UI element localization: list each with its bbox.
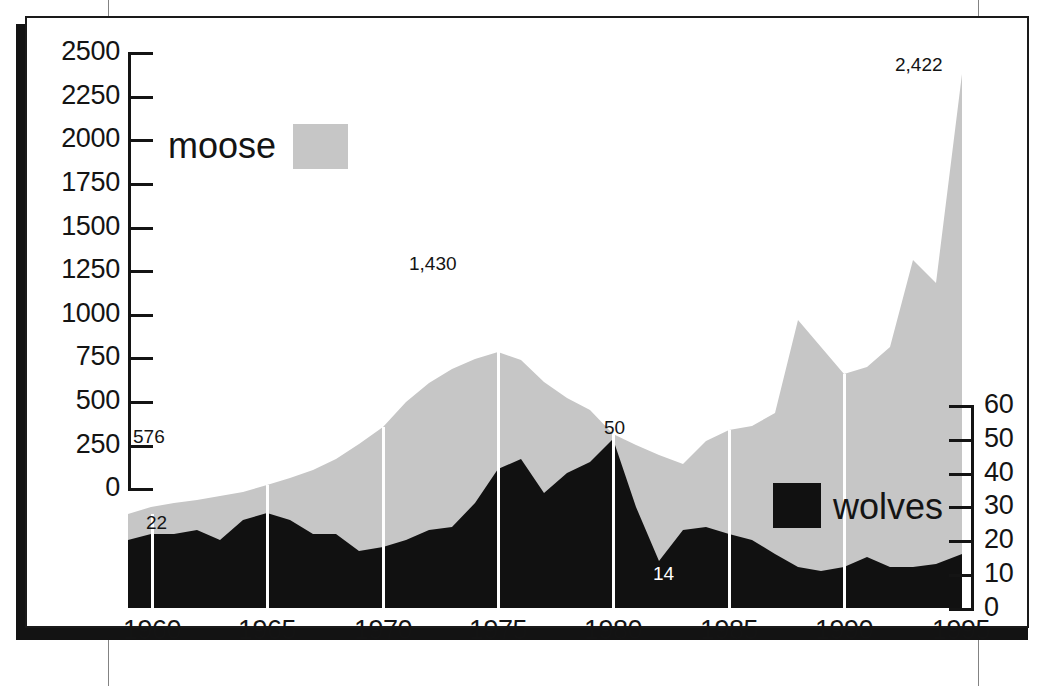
left-axis-label-500: 500: [20, 387, 120, 414]
x-axis-label-1990: 1990: [789, 617, 899, 644]
x-axis-label-1995: 1995: [906, 617, 1016, 644]
callout-moose-1430: 1,430: [409, 254, 457, 273]
figure-root: 2500 2250 2000 1750 1500 1250 1000 750 5…: [0, 0, 1047, 686]
x-axis-label-1965: 1965: [212, 617, 322, 644]
right-axis-label-60: 60: [984, 391, 1044, 418]
gridline-1965: [266, 485, 269, 608]
legend-label-moose: moose: [168, 128, 276, 164]
left-tick-1250: [131, 270, 153, 273]
left-axis-label-250: 250: [20, 431, 120, 458]
right-tick-30: [949, 506, 971, 509]
left-axis-label-2250: 2250: [20, 82, 120, 109]
x-axis-label-1970: 1970: [328, 617, 438, 644]
left-axis-label-1000: 1000: [20, 300, 120, 327]
right-tick-60: [949, 405, 971, 408]
chart-plot-area: 2500 2250 2000 1750 1500 1250 1000 750 5…: [0, 0, 1047, 686]
left-tick-500: [131, 401, 153, 404]
right-tick-40: [949, 473, 971, 476]
left-axis-label-2000: 2000: [20, 125, 120, 152]
right-tick-0: [949, 608, 971, 611]
callout-moose-2422: 2,422: [895, 55, 943, 74]
right-axis-label-20: 20: [984, 526, 1044, 553]
left-tick-750: [131, 357, 153, 360]
x-axis-label-1985: 1985: [674, 617, 784, 644]
right-axis-label-30: 30: [984, 492, 1044, 519]
gridline-1980: [612, 434, 615, 608]
x-axis-label-1980: 1980: [558, 617, 668, 644]
right-axis-line: [971, 405, 974, 611]
left-axis-label-2500: 2500: [20, 38, 120, 65]
gridline-1970: [382, 427, 385, 608]
legend-swatch-wolves: [773, 483, 821, 528]
left-tick-1750: [131, 183, 153, 186]
right-tick-50: [949, 439, 971, 442]
callout-wolves-22: 22: [146, 513, 167, 532]
x-axis-label-1975: 1975: [443, 617, 553, 644]
right-axis-label-40: 40: [984, 459, 1044, 486]
left-axis-label-0: 0: [20, 474, 120, 501]
left-axis-label-1750: 1750: [20, 169, 120, 196]
legend-swatch-moose: [293, 124, 348, 169]
right-tick-20: [949, 540, 971, 543]
callout-moose-576: 576: [133, 427, 165, 446]
left-axis-label-1500: 1500: [20, 213, 120, 240]
left-tick-2500: [131, 52, 153, 55]
callout-wolves-50: 50: [604, 418, 625, 437]
gridline-1985: [728, 430, 731, 608]
left-axis-label-1250: 1250: [20, 256, 120, 283]
right-tick-10: [949, 574, 971, 577]
left-tick-1500: [131, 227, 153, 230]
left-tick-1000: [131, 314, 153, 317]
x-axis-label-1960: 1960: [97, 617, 207, 644]
right-axis-label-50: 50: [984, 425, 1044, 452]
left-axis-label-750: 750: [20, 343, 120, 370]
left-tick-0: [131, 488, 153, 491]
gridline-1975: [497, 352, 500, 608]
legend-label-wolves: wolves: [833, 489, 943, 525]
left-tick-2000: [131, 139, 153, 142]
area-chart-canvas: [0, 0, 1047, 686]
right-axis-label-10: 10: [984, 560, 1044, 587]
callout-wolves-14: 14: [653, 564, 674, 583]
left-tick-2250: [131, 96, 153, 99]
